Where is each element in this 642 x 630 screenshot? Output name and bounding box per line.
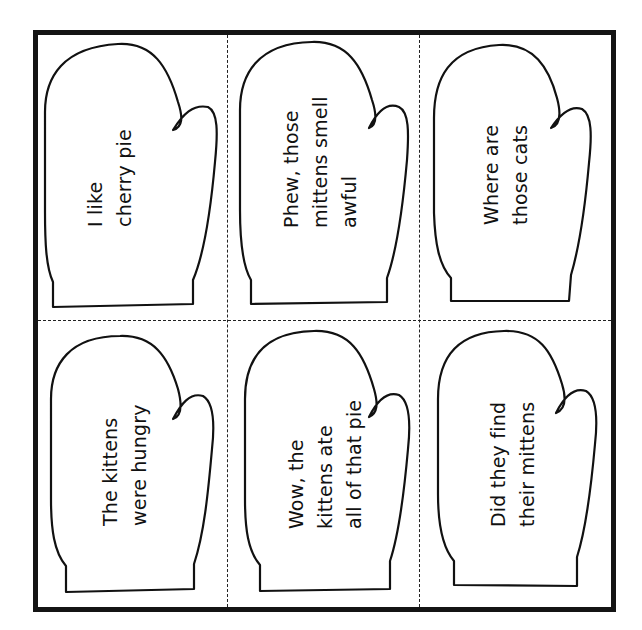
mitten-caption: Wow, the kittens ate all of that pie [282, 400, 369, 529]
mitten-caption: Where are those cats [477, 125, 535, 225]
mitten-caption: The kittens were hungry [96, 404, 154, 526]
mitten-caption: Did they find their mittens [484, 402, 542, 527]
cut-line-horizontal [38, 320, 611, 321]
mitten-caption: I like cherry pie [81, 129, 139, 227]
mitten-caption: Phew, those mittens smell awful [277, 96, 364, 228]
